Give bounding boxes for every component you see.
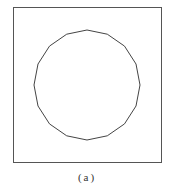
figure-frame (14, 8, 162, 163)
figure-canvas (0, 0, 170, 191)
figure-caption: (a) (0, 171, 170, 183)
polygon-shape (34, 30, 140, 140)
